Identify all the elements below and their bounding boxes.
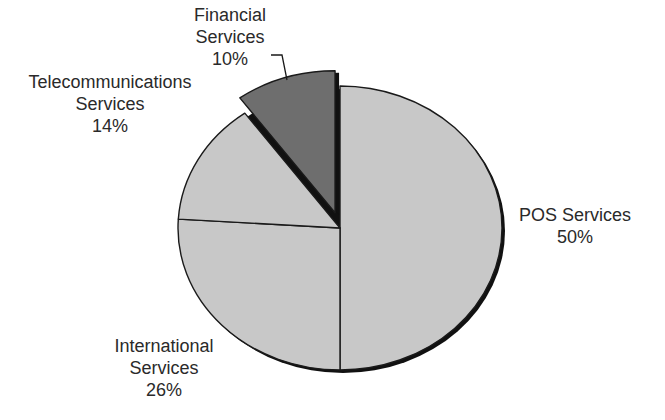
- label-international-line2: Services: [94, 357, 234, 379]
- slice-pos-services: [340, 86, 502, 370]
- label-financial-services: Financial Services 10%: [170, 4, 290, 70]
- label-pos-services: POS Services 50%: [505, 204, 645, 248]
- label-financial-line2: Services: [170, 26, 290, 48]
- label-financial-line1: Financial: [170, 4, 290, 26]
- label-pos-line1: POS Services: [505, 204, 645, 226]
- label-telecom-line2: Services: [10, 93, 210, 115]
- label-financial-value: 10%: [170, 48, 290, 70]
- label-telecom-value: 14%: [10, 115, 210, 137]
- pie-slices: [178, 71, 502, 370]
- label-telecommunications-services: Telecommunications Services 14%: [10, 71, 210, 137]
- label-international-value: 26%: [94, 379, 234, 401]
- label-international-services: International Services 26%: [94, 335, 234, 401]
- label-telecom-line1: Telecommunications: [10, 71, 210, 93]
- label-pos-value: 50%: [505, 226, 645, 248]
- label-international-line1: International: [94, 335, 234, 357]
